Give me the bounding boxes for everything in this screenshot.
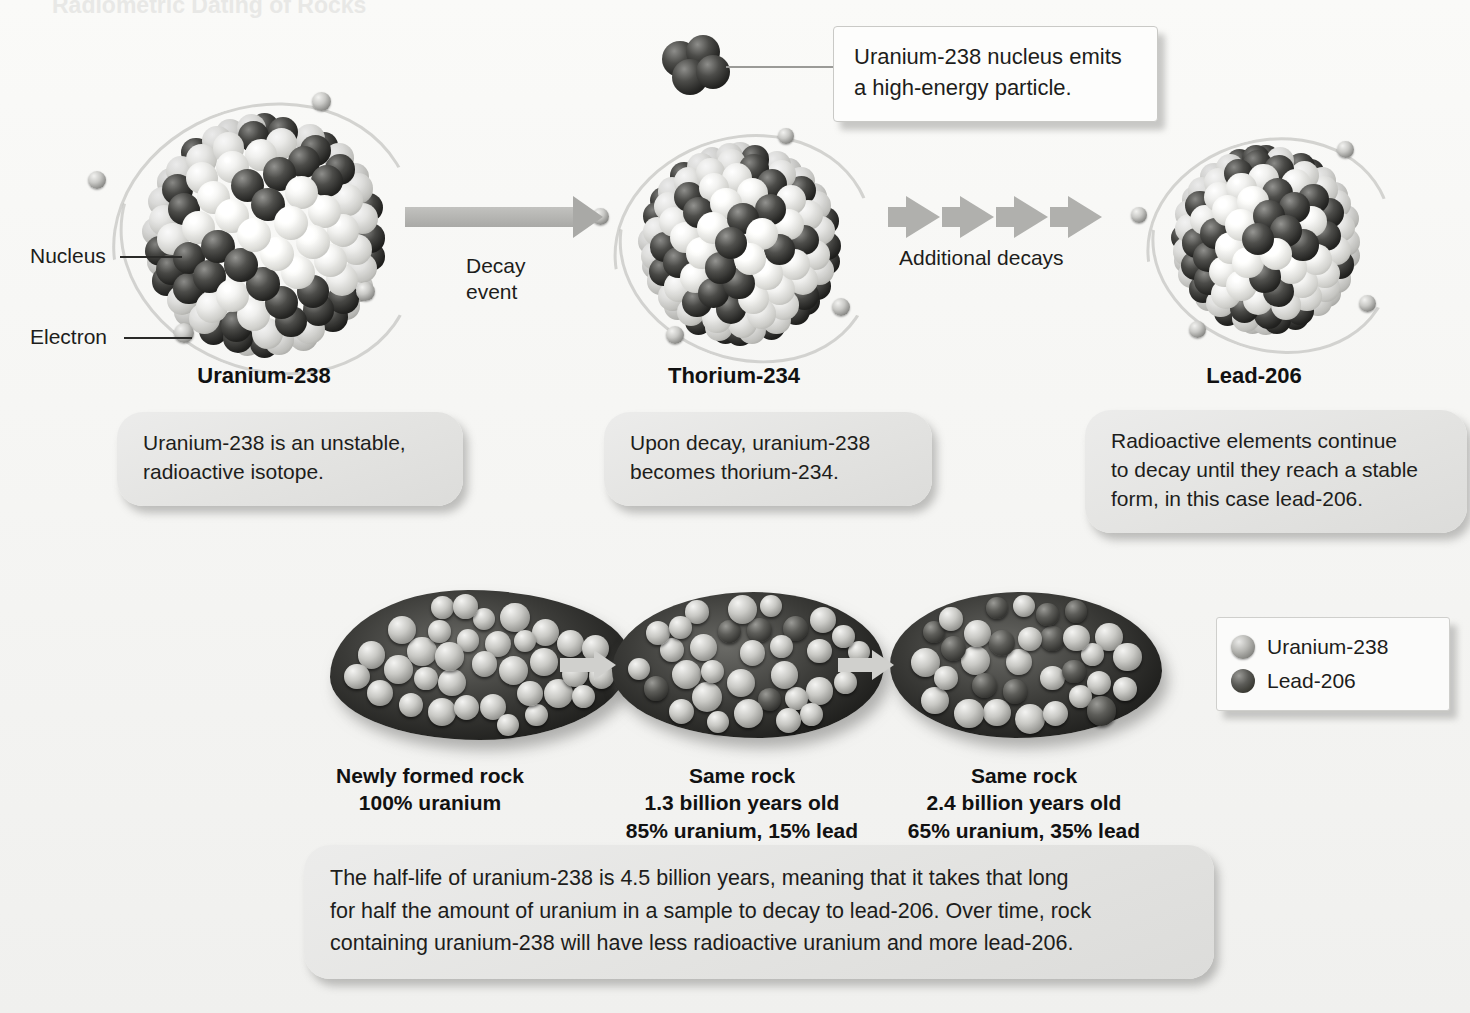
uranium-sphere-icon [1013, 595, 1036, 618]
uranium-sphere-icon [669, 616, 692, 639]
arrow-head-icon [960, 196, 994, 238]
uranium-sphere-icon [414, 667, 438, 691]
rock-isotope-spheres [890, 592, 1162, 738]
uranium-sphere-icon [344, 664, 370, 690]
nucleon-dark [224, 248, 258, 282]
uranium-sphere-icon [734, 699, 763, 728]
lead-sphere-icon [1065, 600, 1087, 622]
electron-particle [778, 128, 794, 144]
arrow-shaft [560, 658, 596, 672]
uranium-sphere-icon [690, 634, 717, 661]
legend-item-lead: Lead-206 [1231, 664, 1429, 698]
uranium-sphere-icon [453, 594, 478, 619]
additional-decays-arrows [888, 196, 1120, 238]
caption-lead-206: Radioactive elements continue to decay u… [1085, 410, 1467, 533]
rock-caption-new: Newly formed rock 100% uranium [300, 762, 560, 817]
arrow-shaft [405, 207, 575, 227]
lead-sphere-icon [1036, 603, 1059, 626]
uranium-sphere-icon [934, 666, 958, 690]
uranium-sphere-icon [939, 607, 962, 630]
lead-sphere-icon [1040, 626, 1065, 651]
alpha-emission-callout: Uranium-238 nucleus emits a high-energy … [833, 26, 1158, 122]
nucleon-light [237, 218, 271, 252]
uranium-sphere-icon [431, 596, 454, 619]
legend-label-lead: Lead-206 [1267, 669, 1356, 693]
uranium-sphere-icon [517, 681, 542, 706]
electron-particle [356, 282, 375, 301]
lead-sphere-icon [972, 673, 997, 698]
uranium-sphere-icon [435, 642, 464, 671]
nucleon-cluster [142, 113, 387, 358]
arrow-shaft [838, 658, 874, 672]
alpha-particle [662, 35, 732, 95]
uranium-sphere-icon [669, 699, 694, 724]
electron-particle [1131, 207, 1147, 223]
uranium-sphere-icon [832, 625, 855, 648]
rock-caption-2-4: Same rock 2.4 billion years old 65% uran… [874, 762, 1174, 844]
uranium-sphere-icon [525, 704, 547, 726]
lead-206-nucleus [1155, 135, 1390, 350]
uranium-sphere-icon [701, 660, 724, 683]
rock-caption-1-3: Same rock 1.3 billion years old 85% uran… [592, 762, 892, 844]
uranium-sphere-icon [807, 639, 831, 663]
rock-arrow-1 [560, 650, 622, 680]
legend: Uranium-238 Lead-206 [1216, 617, 1450, 711]
uranium-sphere-icon [1043, 701, 1068, 726]
alpha-nucleon [696, 55, 730, 89]
uranium-sphere-icon [954, 699, 984, 729]
additional-decays-label: Additional decays [899, 245, 1064, 271]
rock-2-4 [890, 592, 1162, 738]
decay-event-label: Decay event [466, 253, 526, 304]
thorium-234-nucleus [620, 130, 870, 360]
uranium-sphere-icon [407, 637, 436, 666]
uranium-sphere-icon [776, 708, 801, 733]
uranium-sphere-icon [1231, 635, 1255, 659]
lead-sphere-icon [747, 618, 771, 642]
uranium-sphere-icon [1113, 677, 1138, 702]
uranium-sphere-icon [1040, 666, 1064, 690]
lead-sphere-icon [1062, 660, 1086, 684]
uranium-sphere-icon [740, 640, 765, 665]
arrow-head-icon [594, 650, 616, 680]
rock-arrow-2 [838, 650, 900, 680]
arrow-head-icon [573, 196, 603, 238]
uranium-sphere-icon [497, 714, 519, 736]
uranium-sphere-icon [707, 711, 729, 733]
isotope-label-uranium-238: Uranium-238 [150, 363, 378, 389]
uranium-sphere-icon [500, 603, 529, 632]
nucleus-label: Nucleus [30, 243, 106, 269]
uranium-sphere-icon [532, 619, 559, 646]
nucleon-light [216, 279, 249, 312]
electron-particle [1337, 141, 1354, 158]
uranium-sphere-icon [800, 703, 823, 726]
caption-uranium-238: Uranium-238 is an unstable, radioactive … [117, 412, 463, 506]
arrow-head-icon [1068, 196, 1102, 238]
isotope-label-thorium-234: Thorium-234 [620, 363, 848, 389]
arrow-head-icon [1014, 196, 1048, 238]
arrow-shaft [942, 207, 962, 227]
uranium-sphere-icon [384, 655, 413, 684]
lead-sphere-icon [941, 636, 966, 661]
electron-particle [1189, 321, 1206, 338]
arrow-shaft [1050, 207, 1070, 227]
uranium-sphere-icon [454, 695, 479, 720]
decay-arrow [405, 196, 605, 238]
diagram-canvas: Radiometric Dating of Rocks [0, 0, 1470, 1013]
uranium-sphere-icon [572, 685, 595, 708]
uranium-sphere-icon [692, 682, 722, 712]
arrow-head-icon [872, 650, 894, 680]
uranium-sphere-icon [921, 687, 948, 714]
electron-particle [174, 323, 194, 343]
uranium-sphere-icon [727, 669, 755, 697]
arrow-head-icon [906, 196, 940, 238]
lead-sphere-icon [644, 676, 668, 700]
legend-item-uranium: Uranium-238 [1231, 630, 1429, 664]
legend-label-uranium: Uranium-238 [1267, 635, 1388, 659]
uranium-sphere-icon [428, 698, 456, 726]
uranium-sphere-icon [964, 620, 991, 647]
half-life-note: The half-life of uranium-238 is 4.5 bill… [304, 845, 1214, 979]
lead-sphere-icon [1003, 679, 1028, 704]
uranium-sphere-icon [438, 669, 465, 696]
uranium-sphere-icon [1113, 643, 1142, 672]
uranium-sphere-icon [1015, 704, 1045, 734]
